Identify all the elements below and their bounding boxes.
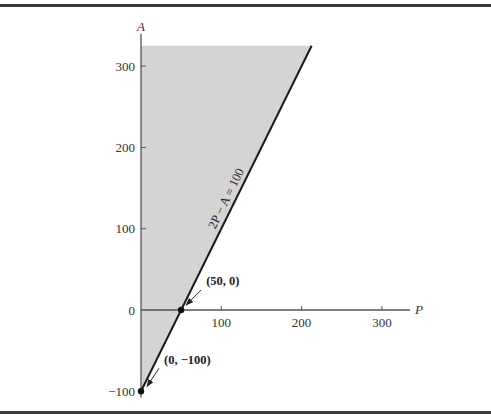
x-tick-label: 100 bbox=[212, 315, 232, 330]
y-tick-label: −100 bbox=[108, 384, 135, 399]
y-tick-label: 300 bbox=[116, 59, 136, 74]
annotation-label: (50, 0) bbox=[206, 274, 239, 288]
annotated-point bbox=[138, 388, 144, 394]
annotation-label: (0, −100) bbox=[164, 353, 211, 367]
x-axis-label: P bbox=[414, 302, 423, 317]
y-axis-label: A bbox=[136, 19, 145, 34]
x-tick-label: 300 bbox=[372, 315, 392, 330]
annotated-point bbox=[178, 307, 184, 313]
x-tick-label: 200 bbox=[292, 315, 312, 330]
y-ticks: −1000100200300 bbox=[108, 59, 146, 399]
chart: 100200300 −1000100200300 P A 2P − A = 10… bbox=[0, 0, 491, 418]
y-tick-label: 0 bbox=[129, 303, 136, 318]
y-tick-label: 200 bbox=[116, 140, 136, 155]
y-tick-label: 100 bbox=[116, 221, 136, 236]
